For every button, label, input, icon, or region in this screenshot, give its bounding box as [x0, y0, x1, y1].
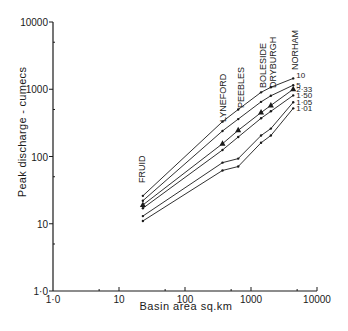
y-tick-label: 1000	[26, 84, 49, 95]
point-marker	[260, 91, 262, 93]
y-axis-label: Peak discharge - cumecs	[16, 67, 28, 198]
station-label-boleside: BOLESIDE	[258, 43, 268, 88]
point-marker	[270, 134, 272, 136]
point-marker	[221, 161, 223, 163]
station-label-peebles: PEEBLES	[236, 67, 246, 108]
station-labels: FRUIDLYNEFORDPEEBLESBOLESIDEDRYBURGHNORH…	[137, 30, 300, 183]
x-tick-label: 10000	[303, 294, 331, 305]
flood-frequency-chart: 1·0101001000100001·010100100010000 1052·…	[0, 0, 348, 331]
point-marker	[260, 117, 262, 119]
point-marker	[221, 149, 223, 151]
point-marker	[270, 95, 272, 97]
triangle-marker	[220, 140, 226, 146]
point-marker	[260, 101, 262, 103]
point-marker	[270, 127, 272, 129]
y-tick-label: 10	[37, 219, 49, 230]
station-label-norham: NORHAM	[290, 30, 300, 70]
point-marker	[142, 220, 144, 222]
x-tick-label: 10	[113, 294, 125, 305]
point-marker	[292, 94, 294, 96]
point-marker	[292, 101, 294, 103]
point-marker	[142, 215, 144, 217]
point-marker	[237, 136, 239, 138]
x-axis-label: Basin area sq.km	[140, 300, 233, 312]
triangle-marker	[235, 127, 241, 133]
y-tick-label: 100	[31, 152, 48, 163]
point-marker	[221, 169, 223, 171]
point-marker	[260, 134, 262, 136]
point-marker	[260, 142, 262, 144]
point-marker	[292, 77, 294, 79]
return-period-label: 10	[296, 71, 305, 80]
point-marker	[270, 110, 272, 112]
axes: 1·0101001000100001·010100100010000	[20, 17, 331, 305]
station-label-fruid: FRUID	[137, 155, 147, 183]
station-label-lyneford: LYNEFORD	[218, 73, 228, 122]
point-marker	[237, 118, 239, 120]
station-label-dryburgh: DRYBURGH	[268, 37, 278, 88]
x-tick-label: 1·0	[46, 294, 61, 305]
point-marker	[237, 165, 239, 167]
y-tick-label: 10000	[20, 17, 48, 28]
point-marker	[221, 130, 223, 132]
triangle-marker	[258, 109, 264, 115]
triangle-marker	[268, 102, 274, 108]
point-marker	[292, 107, 294, 109]
point-marker	[237, 157, 239, 159]
point-marker	[142, 195, 144, 197]
return-period-label: 1·01	[296, 104, 313, 113]
x-tick-label: 1000	[240, 294, 263, 305]
point-marker	[142, 207, 144, 209]
